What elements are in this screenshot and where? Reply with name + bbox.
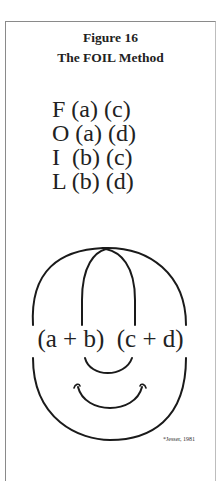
outer-arc-bottom bbox=[33, 358, 186, 440]
inner-arc bbox=[82, 249, 135, 325]
inner-smile bbox=[85, 358, 132, 373]
mouth-smile bbox=[78, 387, 142, 408]
citation: *Jesser, 1981 bbox=[163, 436, 195, 442]
outer-arc-top-right bbox=[103, 248, 186, 325]
factored-expression: (a + b) (c + d) bbox=[0, 325, 221, 353]
